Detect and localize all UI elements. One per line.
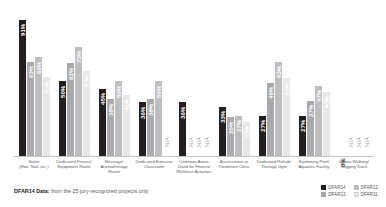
- legend-label: DFAR11: [361, 192, 378, 197]
- footnote-bold: DFAR14 Data:: [14, 188, 50, 194]
- x-axis-label: Massage/AromatherapyRoom: [94, 159, 134, 175]
- bar-value-label: 38%: [107, 101, 114, 116]
- bar-value-label: N/A: [363, 132, 370, 147]
- bar-group: 50%62%73%57%: [54, 6, 94, 156]
- bar-value-label: 63%: [275, 63, 282, 78]
- x-axis-label: Indoor Walking/Jogging Track: [334, 159, 374, 169]
- bar: 36%: [139, 102, 146, 156]
- legend-swatch-icon: [354, 185, 359, 190]
- bar: 23%: [243, 122, 250, 157]
- bar: 45%: [99, 89, 106, 157]
- bar: 49%: [267, 83, 274, 157]
- bar-group: 91%63%66%53%: [14, 6, 54, 156]
- x-axis-label: Common AreasUsed for Fitness/Wellness Ac…: [174, 159, 214, 175]
- bar-value-label: 49%: [267, 84, 274, 99]
- bar: N/A: [163, 130, 170, 156]
- legend-label: DFAR13: [328, 192, 345, 197]
- legend-label: DFAR14: [328, 185, 345, 190]
- legend-label: DFAR12: [361, 185, 378, 190]
- bar: 57%: [83, 71, 90, 157]
- legend-item[interactable]: DFAR11: [354, 192, 378, 197]
- bar: 63%: [27, 62, 34, 157]
- bar-value-label: 33%: [219, 108, 226, 123]
- bar-group: 45%38%50%41%: [94, 6, 134, 156]
- bar: 41%: [123, 95, 130, 157]
- bar: 37%: [307, 101, 314, 157]
- x-axis-label: Dedicated ExerciseClassroom: [134, 159, 174, 169]
- bar: 36%: [179, 102, 186, 156]
- bar: 52%: [283, 78, 290, 156]
- bar-value-label: 43%: [323, 93, 330, 108]
- bar-group: 0%N/AN/AN/A: [334, 6, 374, 156]
- bar-value-label: N/A: [347, 132, 354, 147]
- x-axis-labels: Salon(Hair, Nail, etc.)Dedicated Fitness…: [14, 159, 374, 183]
- bar-value-label: 91%: [19, 21, 26, 36]
- x-axis-label: Dedicated Fitness/Equipment Room: [54, 159, 94, 169]
- bar-value-label: 52%: [283, 80, 290, 95]
- bar-value-label: N/A: [195, 132, 202, 147]
- bar-value-label: 62%: [67, 65, 74, 80]
- bar-value-label: 26%: [227, 119, 234, 134]
- bar-group: 27%49%63%52%: [254, 6, 294, 156]
- bar: 27%: [299, 116, 306, 157]
- bar-group: 36%38%50%N/A: [134, 6, 174, 156]
- legend-swatch-icon: [354, 192, 359, 197]
- bar: 63%: [275, 62, 282, 157]
- bar-value-label: 73%: [75, 48, 82, 63]
- footnote: DFAR14 Data: from the 25 jury-recognized…: [14, 188, 149, 195]
- bar: N/A: [195, 130, 202, 156]
- x-axis-label: Swimming Pool/Aquatics Facility: [294, 159, 334, 169]
- legend-item[interactable]: DFAR13: [321, 192, 345, 197]
- bar-value-label: 50%: [59, 83, 66, 98]
- legend-swatch-icon: [321, 185, 326, 190]
- x-axis-label: Assessment orTreatment Clinic: [214, 159, 254, 169]
- bar: 73%: [75, 47, 82, 157]
- axis-baseline: [14, 156, 374, 157]
- bar-value-label: 63%: [27, 63, 34, 78]
- bar-value-label: 27%: [259, 117, 266, 132]
- chart-legend: DFAR14DFAR12DFAR13DFAR11: [321, 185, 378, 197]
- bar-value-label: 45%: [99, 90, 106, 105]
- bar: N/A: [203, 130, 210, 156]
- bar-value-label: N/A: [187, 132, 194, 147]
- bar-value-label: 50%: [155, 83, 162, 98]
- bar: 62%: [67, 63, 74, 156]
- legend-swatch-icon: [321, 192, 326, 197]
- bar-value-label: N/A: [163, 132, 170, 147]
- x-axis-label: Dedicated Rehab/Therapy Gym: [254, 159, 294, 169]
- bar: 47%: [315, 86, 322, 157]
- bar: 50%: [155, 81, 162, 156]
- bar: 27%: [235, 116, 242, 157]
- bar: 33%: [219, 107, 226, 157]
- bar: 26%: [227, 117, 234, 156]
- chart-container: 91%63%66%53%50%62%73%57%45%38%50%41%36%3…: [0, 0, 386, 207]
- bar: N/A: [187, 130, 194, 156]
- x-axis-label: Salon(Hair, Nail, etc.): [14, 159, 54, 169]
- bar-value-label: 47%: [315, 87, 322, 102]
- bar-value-label: 53%: [43, 78, 50, 93]
- bar-group: 27%37%47%43%: [294, 6, 334, 156]
- bar-value-label: 23%: [243, 123, 250, 138]
- bar: 53%: [43, 77, 50, 157]
- bar: 50%: [59, 81, 66, 156]
- bar-value-label: 57%: [83, 72, 90, 87]
- bar: 66%: [35, 57, 42, 156]
- footnote-rest: from the 25 jury-recognized projects onl…: [50, 188, 149, 194]
- bar-value-label: 27%: [235, 117, 242, 132]
- bar-value-label: 41%: [123, 96, 130, 111]
- bar: N/A: [355, 130, 362, 156]
- bar-value-label: 37%: [307, 102, 314, 117]
- bar: 50%: [115, 81, 122, 156]
- bar: N/A: [347, 130, 354, 156]
- bar: 91%: [19, 20, 26, 157]
- bar-value-label: 27%: [299, 117, 306, 132]
- bar: N/A: [363, 130, 370, 156]
- bar-value-label: N/A: [355, 132, 362, 147]
- bar-value-label: 36%: [139, 104, 146, 119]
- legend-item[interactable]: DFAR12: [354, 185, 378, 190]
- bar-value-label: 36%: [179, 104, 186, 119]
- legend-item[interactable]: DFAR14: [321, 185, 345, 190]
- bar-value-label: 38%: [147, 101, 154, 116]
- bar-value-label: 66%: [35, 59, 42, 74]
- bar: 43%: [323, 92, 330, 157]
